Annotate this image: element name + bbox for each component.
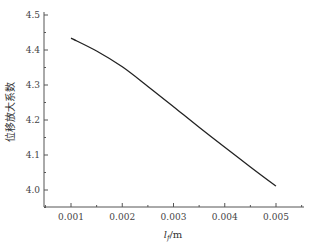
x-tick-label: 0.004 [212, 212, 238, 222]
data-line [71, 38, 276, 186]
y-tick-label: 4.4 [26, 45, 41, 55]
x-axis-title: lf/m [164, 229, 183, 242]
y-tick-label: 4.5 [26, 10, 41, 20]
y-tick-label: 4.1 [26, 150, 40, 160]
x-tick-label: 0.003 [161, 212, 187, 222]
x-axis-title-unit: /m [169, 229, 182, 240]
y-tick-label: 4.2 [26, 115, 40, 125]
x-tick-label: 0.001 [58, 212, 84, 222]
x-axis-ticks: 0.0010.0020.0030.0040.005 [45, 203, 301, 222]
line-chart: 4.04.14.24.34.44.5 0.0010.0020.0030.0040… [0, 0, 309, 247]
y-tick-label: 4.3 [26, 80, 41, 90]
x-tick-label: 0.005 [263, 212, 289, 222]
y-axis-title: 位移放大系数 [4, 82, 16, 142]
y-tick-label: 4.0 [26, 185, 41, 195]
y-axis-ticks: 4.04.14.24.34.44.5 [26, 10, 48, 208]
x-tick-label: 0.002 [109, 212, 135, 222]
